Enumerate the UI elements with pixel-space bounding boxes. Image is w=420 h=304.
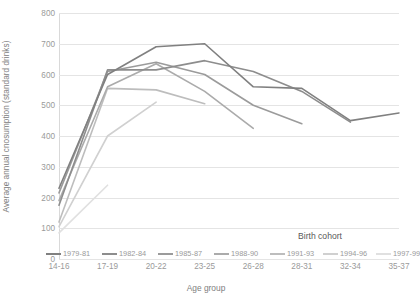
series-line	[59, 61, 350, 206]
x-tick-label: 28-31	[291, 262, 312, 271]
x-tick-label: 20-22	[146, 262, 167, 271]
legend-swatch-icon	[158, 253, 173, 255]
legend-item[interactable]: 1982-84	[102, 249, 146, 258]
plot-area	[59, 13, 399, 259]
y-tick-label: 800	[17, 9, 59, 18]
x-tick-label: 26-28	[243, 262, 264, 271]
legend-item-label: 1985-87	[175, 249, 202, 258]
x-tick-label: 17-19	[97, 262, 118, 271]
series-line	[59, 185, 108, 233]
y-tick-label: 200	[17, 193, 59, 202]
y-tick-label: 100	[17, 224, 59, 233]
series-line	[59, 44, 399, 189]
legend-item-label: 1979-81	[63, 249, 90, 258]
y-tick-label: 300	[17, 162, 59, 171]
legend-swatch-icon	[270, 253, 285, 255]
x-axis-tick-labels: 14-1617-1920-2223-2526-2828-3132-3435-37	[59, 262, 399, 276]
x-tick-label: 14-16	[49, 262, 70, 271]
legend-item-label: 1988-90	[231, 249, 258, 258]
legend-swatch-icon	[102, 253, 117, 255]
x-axis-title: Age group	[0, 283, 412, 293]
x-tick-label: 35-37	[389, 262, 410, 271]
legend-title: Birth cohort	[298, 231, 342, 241]
series-lines	[59, 13, 399, 259]
y-axis-title: Average annual cnosumption (standard dri…	[0, 0, 14, 252]
legend-item-label: 1997-99	[393, 249, 420, 258]
y-tick-label: 600	[17, 70, 59, 79]
y-axis-title-text: Average annual cnosumption (standard dri…	[3, 40, 12, 212]
chart-legend: 1979-811982-841985-871988-901991-931994-…	[46, 249, 406, 261]
x-tick-label: 23-25	[194, 262, 215, 271]
y-tick-label: 500	[17, 101, 59, 110]
series-line	[59, 62, 302, 193]
legend-item[interactable]: 1991-93	[270, 249, 314, 258]
legend-item[interactable]: 1985-87	[158, 249, 202, 258]
y-tick-label: 400	[17, 132, 59, 141]
x-tick-label: 32-34	[340, 262, 361, 271]
series-line	[59, 64, 253, 201]
legend-item-label: 1991-93	[287, 249, 314, 258]
legend-swatch-icon	[214, 253, 229, 255]
legend-item[interactable]: 1988-90	[214, 249, 258, 258]
legend-item[interactable]: 1994-96	[323, 249, 367, 258]
legend-item-label: 1994-96	[340, 249, 367, 258]
legend-item[interactable]: 1979-81	[46, 249, 90, 258]
y-tick-label: 700	[17, 39, 59, 48]
legend-swatch-icon	[46, 253, 61, 255]
legend-swatch-icon	[376, 253, 391, 255]
series-line	[59, 88, 205, 222]
legend-item[interactable]: 1997-99	[376, 249, 420, 258]
legend-swatch-icon	[323, 253, 338, 255]
legend-item-label: 1982-84	[119, 249, 146, 258]
